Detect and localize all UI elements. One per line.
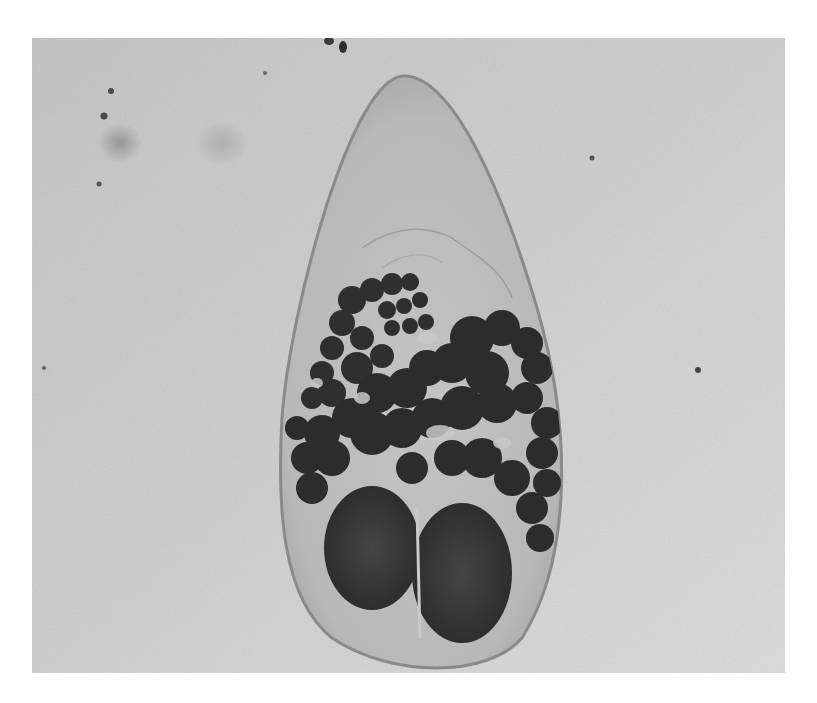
micrograph-photo <box>32 38 785 673</box>
micrograph-image <box>32 38 785 673</box>
smudge <box>98 123 142 163</box>
oval-body-right <box>412 503 512 643</box>
smudge <box>196 121 248 165</box>
oval-body-left <box>324 486 420 610</box>
